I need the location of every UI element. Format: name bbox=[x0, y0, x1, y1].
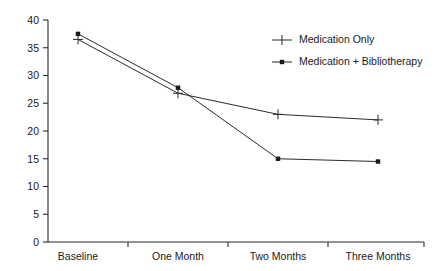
y-tick-label-20: 20 bbox=[27, 125, 39, 137]
y-tick-label-15: 15 bbox=[27, 153, 39, 165]
y-tick-label-40: 40 bbox=[27, 14, 39, 26]
data-point-medication-only-2 bbox=[273, 109, 283, 119]
y-tick-label-10: 10 bbox=[27, 180, 39, 192]
x-axis-tick-labels: BaselineOne MonthTwo MonthsThree Months bbox=[58, 250, 411, 262]
chart-canvas: 0510152025303540 BaselineOne MonthTwo Mo… bbox=[0, 0, 438, 271]
data-series-layer bbox=[73, 32, 383, 164]
series-line-medication-only bbox=[78, 39, 378, 119]
chart-legend: Medication OnlyMedication + Bibliotherap… bbox=[272, 33, 423, 67]
line-chart: 0510152025303540 BaselineOne MonthTwo Mo… bbox=[0, 0, 438, 271]
y-axis-ticks bbox=[43, 20, 48, 242]
y-tick-label-30: 30 bbox=[27, 69, 39, 81]
x-tick-label-baseline: Baseline bbox=[58, 250, 98, 262]
y-tick-label-5: 5 bbox=[33, 208, 39, 220]
legend-label-medication-bibliotherapy: Medication + Bibliotherapy bbox=[299, 55, 423, 67]
legend-entry-medication-only: Medication Only bbox=[272, 33, 375, 45]
y-tick-label-25: 25 bbox=[27, 97, 39, 109]
legend-label-medication-only: Medication Only bbox=[299, 33, 375, 45]
dot-marker-icon bbox=[280, 60, 284, 64]
y-axis-tick-labels: 0510152025303540 bbox=[27, 14, 39, 248]
data-point-medication-bibliotherapy-2 bbox=[276, 157, 280, 161]
x-tick-label-three-months: Three Months bbox=[346, 250, 411, 262]
legend-entry-medication-bibliotherapy: Medication + Bibliotherapy bbox=[272, 55, 423, 67]
series-medication-only bbox=[73, 34, 383, 124]
x-axis-ticks bbox=[128, 242, 424, 247]
series-medication-bibliotherapy bbox=[76, 32, 380, 164]
y-tick-label-35: 35 bbox=[27, 42, 39, 54]
x-tick-label-one-month: One Month bbox=[152, 250, 204, 262]
data-point-medication-bibliotherapy-1 bbox=[176, 86, 180, 90]
data-point-medication-bibliotherapy-0 bbox=[76, 32, 80, 36]
y-tick-label-0: 0 bbox=[33, 236, 39, 248]
series-line-medication-bibliotherapy bbox=[78, 34, 378, 162]
data-point-medication-only-3 bbox=[373, 115, 383, 125]
x-tick-label-two-months: Two Months bbox=[250, 250, 307, 262]
data-point-medication-bibliotherapy-3 bbox=[376, 159, 380, 163]
